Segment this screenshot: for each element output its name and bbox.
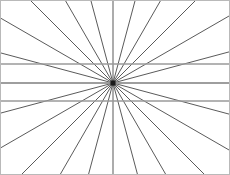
illusion-figure: Radial fan illusion A fan of straight bl… — [0, 0, 230, 175]
canvas-background — [0, 0, 230, 175]
illusion-canvas — [0, 0, 230, 175]
center-convergence-dot — [110, 80, 115, 85]
